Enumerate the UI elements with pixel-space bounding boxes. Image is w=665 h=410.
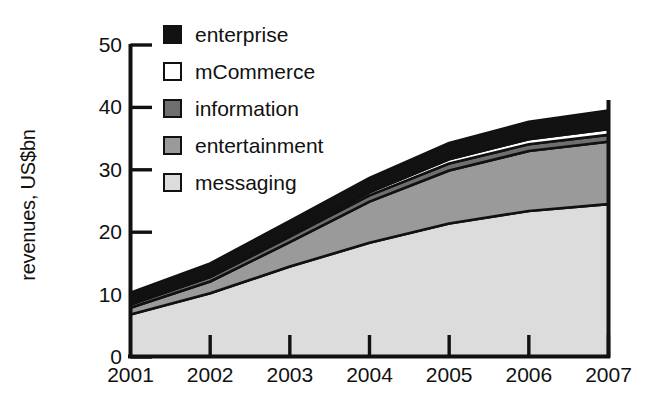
legend-swatch-icon [163, 136, 182, 155]
x-tick-label-2004: 2004 [325, 364, 415, 386]
x-tick-label-2006: 2006 [484, 364, 574, 386]
chart-legend: enterprisemCommerceinformationentertainm… [163, 16, 378, 201]
legend-item-messaging[interactable]: messaging [163, 164, 378, 201]
legend-label: information [195, 98, 299, 119]
legend-label: messaging [195, 172, 297, 193]
legend-swatch-icon [163, 62, 182, 81]
legend-item-information[interactable]: information [163, 90, 378, 127]
legend-swatch-icon [163, 25, 182, 44]
legend-item-entertainment[interactable]: entertainment [163, 127, 378, 164]
legend-label: entertainment [195, 135, 323, 156]
x-tick-label-2002: 2002 [165, 364, 255, 386]
x-tick-label-2005: 2005 [404, 364, 494, 386]
legend-swatch-icon [163, 173, 182, 192]
x-tick-label-2001: 2001 [86, 364, 176, 386]
legend-swatch-icon [163, 99, 182, 118]
x-tick-label-2003: 2003 [245, 364, 335, 386]
legend-label: enterprise [195, 24, 288, 45]
x-tick-label-2007: 2007 [564, 364, 654, 386]
legend-label: mCommerce [195, 61, 315, 82]
legend-item-mcommerce[interactable]: mCommerce [163, 53, 378, 90]
legend-item-enterprise[interactable]: enterprise [163, 16, 378, 53]
stacked-area-chart: revenues, US$bn 01020304050 200120022003… [0, 0, 665, 410]
